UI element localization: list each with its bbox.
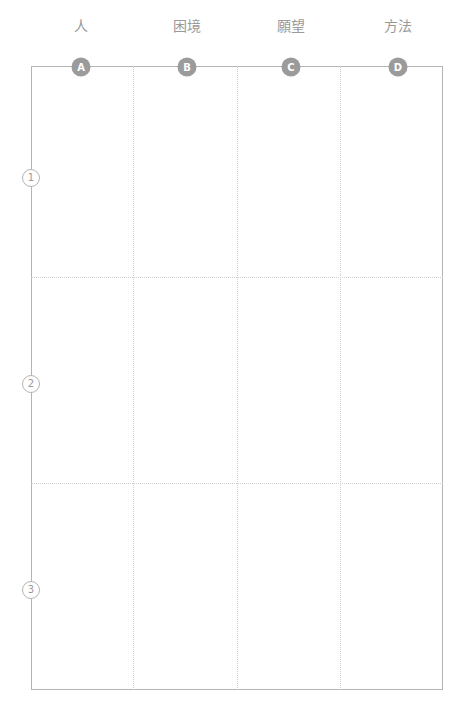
- column-header-label-b: 困境: [173, 17, 202, 35]
- cell-c1[interactable]: [238, 67, 340, 277]
- cell-d3[interactable]: [341, 484, 442, 689]
- cell-d1[interactable]: [341, 67, 442, 277]
- column-badge-b[interactable]: B: [178, 58, 197, 77]
- cell-a2[interactable]: [32, 278, 133, 483]
- cell-a1[interactable]: [32, 67, 133, 277]
- row-badge-1[interactable]: 1: [22, 169, 40, 187]
- column-header-label-a: 人: [74, 17, 89, 35]
- row-badge-2[interactable]: 2: [22, 375, 40, 393]
- cell-c2[interactable]: [238, 278, 340, 483]
- column-header-label-c: 願望: [277, 17, 306, 35]
- column-badge-d[interactable]: D: [389, 58, 408, 77]
- cell-c3[interactable]: [238, 484, 340, 689]
- column-header-label-d: 方法: [384, 17, 413, 35]
- cell-a3[interactable]: [32, 484, 133, 689]
- cell-b1[interactable]: [134, 67, 237, 277]
- row-badge-3[interactable]: 3: [22, 581, 40, 599]
- cell-d2[interactable]: [341, 278, 442, 483]
- column-badge-a[interactable]: A: [72, 58, 91, 77]
- cell-b3[interactable]: [134, 484, 237, 689]
- worksheet-canvas: 人 困境 願望 方法 A B C D 1 2 3: [0, 0, 469, 710]
- cell-b2[interactable]: [134, 278, 237, 483]
- column-badge-c[interactable]: C: [282, 58, 301, 77]
